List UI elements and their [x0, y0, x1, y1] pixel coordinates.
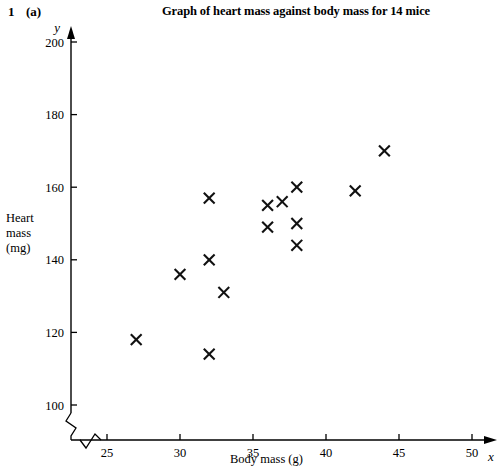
x-axis-break-icon: [71, 434, 101, 448]
data-point: [204, 193, 215, 204]
data-point: [291, 240, 302, 251]
x-tick-label: 35: [247, 446, 260, 460]
x-tick-label: 50: [466, 446, 479, 460]
y-tick-group: 100120140160180200: [45, 36, 77, 413]
y-variable-symbol: y: [52, 20, 60, 35]
y-axis-break-icon: [66, 413, 76, 440]
data-point: [277, 196, 288, 207]
x-axis: [80, 436, 497, 444]
scatter-plot: y x 100120140160180200 253035404550: [0, 0, 503, 472]
y-axis-arrowhead: [67, 26, 75, 39]
x-tick-label: 40: [320, 446, 333, 460]
data-point: [291, 218, 302, 229]
data-point: [218, 287, 229, 298]
y-tick-label: 180: [45, 108, 64, 122]
x-tick-label: 45: [393, 446, 406, 460]
data-point: [204, 254, 215, 265]
x-axis-arrowhead: [484, 436, 497, 444]
data-point: [131, 334, 142, 345]
data-point-group: [131, 146, 390, 360]
x-tick-group: 253035404550: [101, 434, 479, 460]
y-tick-label: 160: [45, 181, 64, 195]
y-tick-label: 200: [45, 36, 64, 50]
data-point: [175, 269, 186, 280]
y-tick-label: 100: [45, 399, 64, 413]
x-variable-symbol: x: [487, 449, 494, 464]
x-tick-label: 25: [101, 446, 114, 460]
worksheet-figure: 1 (a) Graph of heart mass against body m…: [0, 0, 503, 472]
y-tick-label: 120: [45, 326, 64, 340]
data-point: [204, 349, 215, 360]
data-point: [262, 222, 273, 233]
y-tick-label: 140: [45, 253, 64, 267]
y-axis: [67, 26, 75, 413]
data-point: [350, 185, 361, 196]
x-tick-label: 30: [174, 446, 187, 460]
data-point: [262, 200, 273, 211]
data-point: [291, 182, 302, 193]
data-point: [379, 146, 390, 157]
